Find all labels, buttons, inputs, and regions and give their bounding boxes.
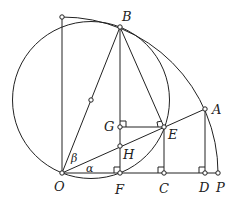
trig-identity-diagram: α β B G H E A O F C D P (0, 0, 240, 205)
label-f: F (114, 182, 125, 197)
point-e (162, 125, 166, 129)
label-d: D (198, 180, 210, 195)
point-p (216, 171, 220, 175)
label-h: H (122, 147, 135, 162)
point-d (203, 171, 207, 175)
label-a: A (211, 102, 221, 117)
label-o: O (54, 179, 65, 194)
point-o (60, 171, 64, 175)
point-g (118, 125, 122, 129)
angle-beta-label: β (70, 152, 77, 165)
segment-be (120, 27, 164, 127)
point-t (60, 15, 64, 19)
label-g: G (104, 119, 114, 134)
label-c: C (159, 181, 169, 196)
label-p: P (215, 180, 225, 195)
label-e: E (167, 127, 178, 142)
point-c (162, 171, 166, 175)
point-m (89, 98, 93, 102)
angle-alpha-label: α (86, 162, 94, 175)
label-b: B (121, 9, 132, 24)
point-h (118, 144, 122, 148)
point-b (118, 25, 122, 29)
point-a (203, 107, 207, 111)
point-f (118, 171, 122, 175)
unit-arc (62, 17, 218, 173)
